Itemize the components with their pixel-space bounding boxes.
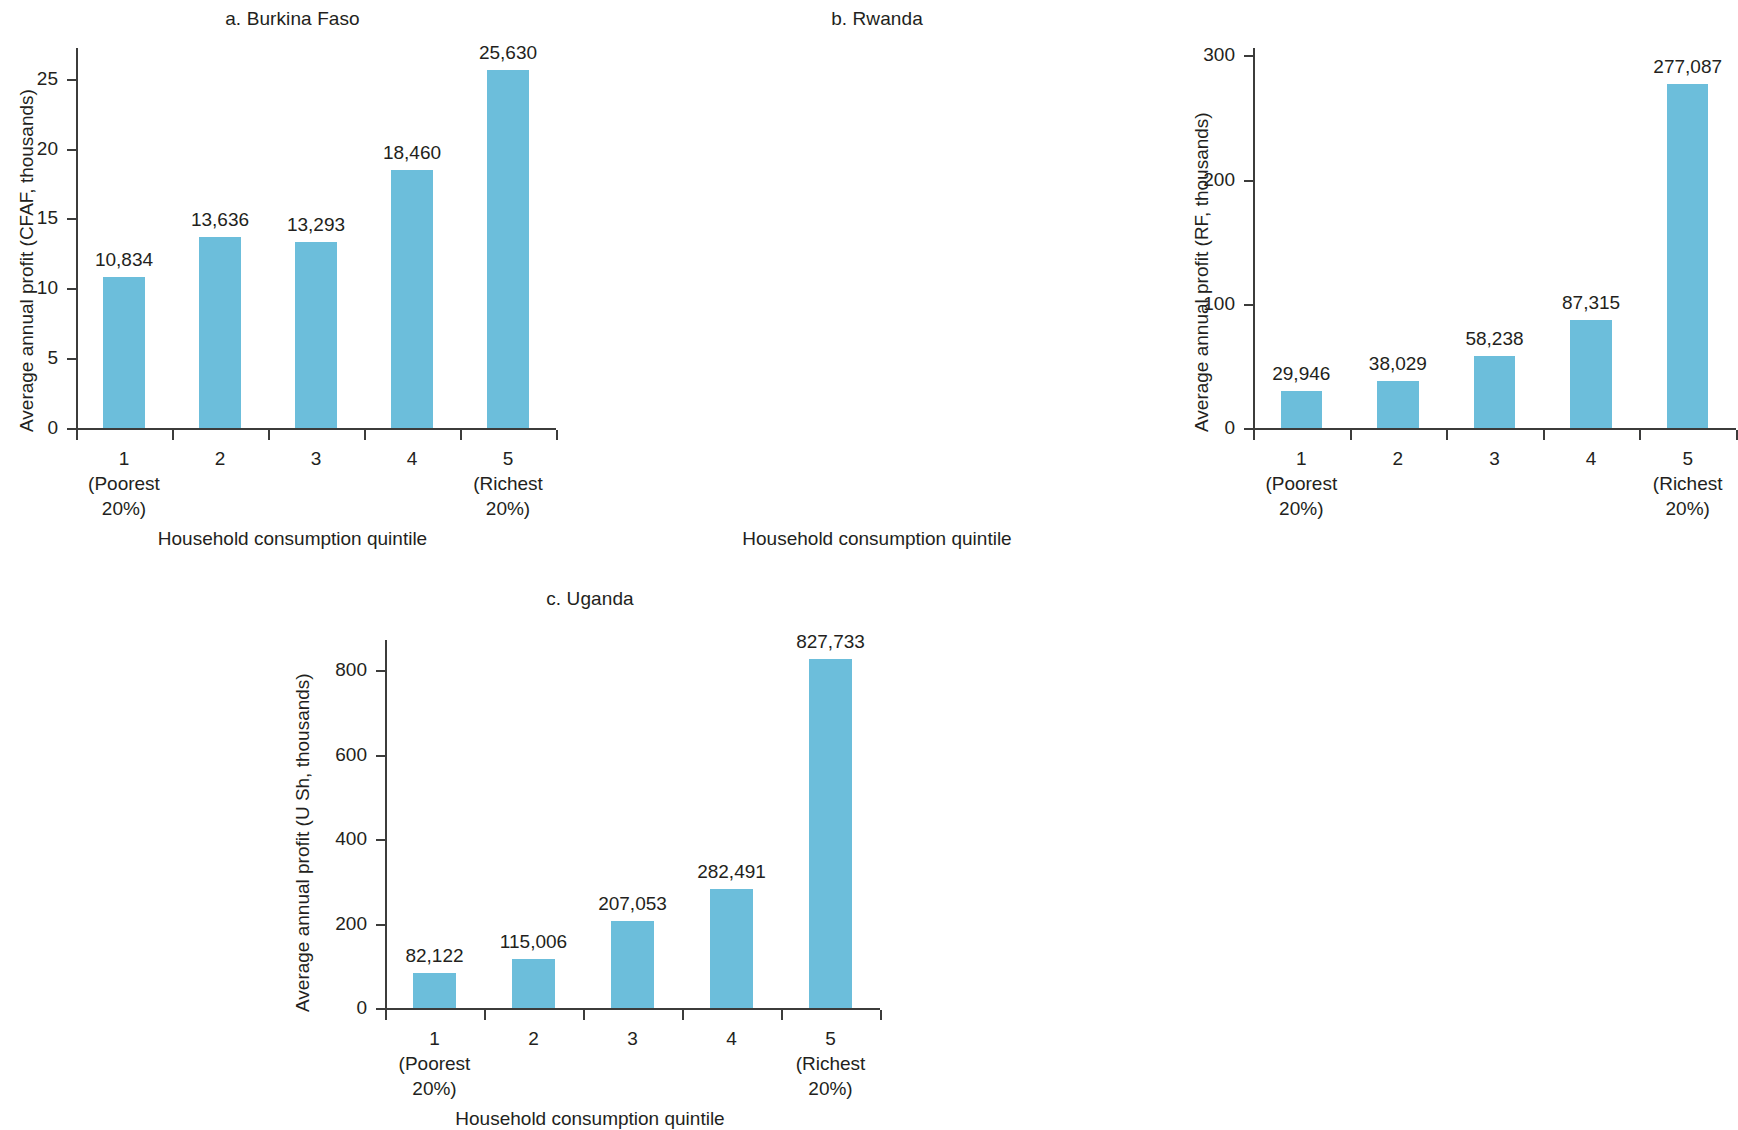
bar-c-q1[interactable] — [413, 973, 456, 1008]
x-category-number-a-3: 3 — [311, 446, 322, 471]
chart-panel-a: a. Burkina FasoAverage annual profit (CF… — [0, 0, 585, 560]
y-tick-label-b-2: 200 — [1203, 169, 1235, 191]
x-tick-b-0 — [1253, 430, 1255, 440]
x-category-label-c-2: 2 — [528, 1026, 539, 1051]
bar-a-q4[interactable] — [391, 170, 432, 428]
bar-b-q2[interactable] — [1377, 381, 1419, 428]
y-axis-line-c — [385, 640, 387, 1010]
x-tick-b-3 — [1543, 430, 1545, 440]
x-category-label-c-4: 4 — [726, 1026, 737, 1051]
x-category-sub1-b-5: (Richest — [1653, 471, 1723, 496]
panel-title-a: a. Burkina Faso — [0, 8, 585, 30]
y-tick-label-b-0: 0 — [1224, 417, 1235, 439]
bar-b-q1[interactable] — [1281, 391, 1323, 428]
y-tick-b-2 — [1244, 180, 1253, 182]
bar-b-q4[interactable] — [1570, 320, 1612, 428]
x-axis-line-c — [385, 1008, 880, 1010]
bar-a-q5[interactable] — [487, 70, 528, 428]
bar-c-q5[interactable] — [809, 659, 852, 1008]
x-category-label-b-5: 5(Richest20%) — [1653, 446, 1723, 521]
y-tick-label-a-1: 5 — [47, 347, 58, 369]
x-category-number-a-2: 2 — [215, 446, 226, 471]
bar-a-q2[interactable] — [199, 237, 240, 428]
y-axis-label-c: Average annual profit (U Sh, thousands) — [292, 673, 314, 1012]
x-category-sub2-c-5: 20%) — [796, 1076, 866, 1101]
x-axis-line-b — [1253, 428, 1736, 430]
x-category-number-b-2: 2 — [1393, 446, 1404, 471]
bar-value-label-b-q5: 277,087 — [1653, 56, 1722, 78]
x-tick-a-4 — [460, 430, 462, 440]
x-category-number-c-3: 3 — [627, 1026, 638, 1051]
x-category-label-c-5: 5(Richest20%) — [796, 1026, 866, 1101]
x-category-label-b-2: 2 — [1393, 446, 1404, 471]
bar-value-label-a-q2: 13,636 — [191, 209, 249, 231]
y-tick-c-1 — [376, 924, 385, 926]
bar-b-q3[interactable] — [1474, 356, 1516, 428]
bar-value-label-c-q3: 207,053 — [598, 893, 667, 915]
y-tick-label-c-1: 200 — [335, 913, 367, 935]
bar-c-q4[interactable] — [710, 889, 753, 1008]
x-category-sub1-c-1: (Poorest — [399, 1051, 471, 1076]
y-tick-a-5 — [67, 79, 76, 81]
y-tick-c-4 — [376, 670, 385, 672]
x-category-label-a-2: 2 — [215, 446, 226, 471]
y-tick-label-b-3: 300 — [1203, 44, 1235, 66]
y-tick-b-1 — [1244, 304, 1253, 306]
x-category-label-c-3: 3 — [627, 1026, 638, 1051]
y-tick-label-a-2: 10 — [37, 277, 58, 299]
x-tick-a-end — [556, 430, 558, 440]
plot-area-a: 051015202510,83413,63613,29318,46025,630 — [76, 48, 556, 428]
x-tick-c-4 — [781, 1010, 783, 1020]
x-axis-label-b: Household consumption quintile — [585, 528, 1169, 550]
y-tick-a-3 — [67, 218, 76, 220]
x-category-label-a-5: 5(Richest20%) — [473, 446, 543, 521]
x-tick-a-3 — [364, 430, 366, 440]
x-tick-b-1 — [1350, 430, 1352, 440]
y-tick-label-a-5: 25 — [37, 68, 58, 90]
x-category-number-b-1: 1 — [1265, 446, 1337, 471]
x-category-number-b-5: 5 — [1653, 446, 1723, 471]
bar-b-q5[interactable] — [1667, 84, 1709, 428]
x-category-label-a-3: 3 — [311, 446, 322, 471]
y-tick-label-c-0: 0 — [356, 997, 367, 1019]
x-tick-a-0 — [76, 430, 78, 440]
x-category-sub1-b-1: (Poorest — [1265, 471, 1337, 496]
y-tick-label-b-1: 100 — [1203, 293, 1235, 315]
y-tick-a-0 — [67, 428, 76, 430]
bar-value-label-b-q2: 38,029 — [1369, 353, 1427, 375]
y-tick-c-3 — [376, 755, 385, 757]
bar-value-label-c-q5: 827,733 — [796, 631, 865, 653]
y-tick-a-1 — [67, 358, 76, 360]
chart-panel-c: c. UgandaAverage annual profit (U Sh, th… — [280, 580, 900, 1125]
y-axis-label-b: Average annual profit (RF, thousands) — [1191, 112, 1213, 432]
y-tick-label-c-4: 800 — [335, 659, 367, 681]
x-category-number-a-1: 1 — [88, 446, 160, 471]
x-tick-a-1 — [172, 430, 174, 440]
y-tick-label-c-2: 400 — [335, 828, 367, 850]
bar-c-q3[interactable] — [611, 921, 654, 1008]
bar-c-q2[interactable] — [512, 959, 555, 1008]
x-category-number-a-5: 5 — [473, 446, 543, 471]
x-tick-c-3 — [682, 1010, 684, 1020]
x-tick-a-2 — [268, 430, 270, 440]
y-tick-b-0 — [1244, 428, 1253, 430]
y-tick-a-4 — [67, 149, 76, 151]
x-category-sub2-b-1: 20%) — [1265, 496, 1337, 521]
bar-a-q1[interactable] — [103, 277, 144, 428]
x-tick-c-1 — [484, 1010, 486, 1020]
bar-value-label-a-q3: 13,293 — [287, 214, 345, 236]
x-tick-c-0 — [385, 1010, 387, 1020]
y-tick-c-2 — [376, 839, 385, 841]
chart-panel-b: b. RwandaAverage annual profit (RF, thou… — [585, 0, 1169, 560]
x-category-number-b-3: 3 — [1489, 446, 1500, 471]
x-category-label-a-4: 4 — [407, 446, 418, 471]
y-axis-label-a: Average annual profit (CFAF, thousands) — [16, 89, 38, 432]
bar-a-q3[interactable] — [295, 242, 336, 428]
x-category-sub2-b-5: 20%) — [1653, 496, 1723, 521]
bar-value-label-a-q1: 10,834 — [95, 249, 153, 271]
y-axis-line-a — [76, 48, 78, 430]
x-tick-c-end — [880, 1010, 882, 1020]
panel-title-c: c. Uganda — [280, 588, 900, 610]
x-category-sub2-a-1: 20%) — [88, 496, 160, 521]
bar-value-label-b-q4: 87,315 — [1562, 292, 1620, 314]
